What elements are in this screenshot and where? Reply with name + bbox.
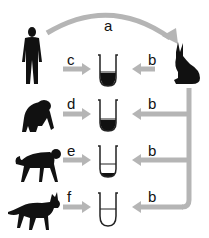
rabbit-icon <box>174 42 200 84</box>
row-monkey <box>63 154 189 166</box>
arrow-e-label: e <box>67 143 75 158</box>
test-tube-dog <box>98 193 118 226</box>
arrow-a <box>47 15 178 44</box>
arrow-b-label-row2: b <box>148 96 156 111</box>
arrow-b-trunk <box>182 88 189 207</box>
dog-icon <box>8 192 60 230</box>
arrow-b-label-row3: b <box>148 143 156 158</box>
row-dog <box>63 201 183 213</box>
human-icon <box>22 27 42 84</box>
test-tube-human <box>98 55 118 86</box>
arrow-a-label: a <box>104 18 112 33</box>
arrow-b-label-row4: b <box>148 189 156 204</box>
chimpanzee-icon <box>22 100 54 132</box>
test-tube-monkey <box>98 146 118 177</box>
arrow-f-label: f <box>67 189 71 204</box>
test-tube-chimpanzee <box>98 100 118 131</box>
row-chimpanzee <box>63 108 189 120</box>
arrow-d-label: d <box>67 96 75 111</box>
arrow-b-label-row1: b <box>148 52 156 67</box>
monkey-icon <box>16 149 62 182</box>
arrow-c-label: c <box>67 52 75 67</box>
antiserum-precipitin-diagram: a c b d b e b f b <box>0 0 209 238</box>
